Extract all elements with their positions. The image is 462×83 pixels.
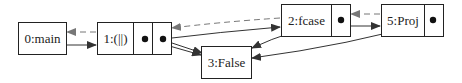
node-label: 0:main [24,31,61,46]
pointer-dot-icon [160,36,166,42]
pointer-dot-icon [142,36,148,42]
node-label: 2:fcase [288,13,325,28]
node-2-fcase[interactable]: 2:fcase [282,5,351,37]
node-label: 3:False [208,55,246,70]
edge-2-to-1 [172,18,280,28]
node-label: 5:Proj [387,13,419,28]
node-label: 1:(||) [104,31,128,46]
diagram-canvas: 0:main 1:(||) 2:fcase 3:False 5:Proj [0,0,462,83]
node-1-or[interactable]: 1:(||) [98,23,172,55]
node-3-false[interactable]: 3:False [202,47,252,79]
edge-1f1-to-2 [163,27,280,39]
node-0-main[interactable]: 0:main [19,23,67,55]
node-5-proj[interactable]: 5:Proj [382,5,444,37]
pointer-dot-icon [430,17,436,23]
pointer-dot-icon [338,17,344,23]
